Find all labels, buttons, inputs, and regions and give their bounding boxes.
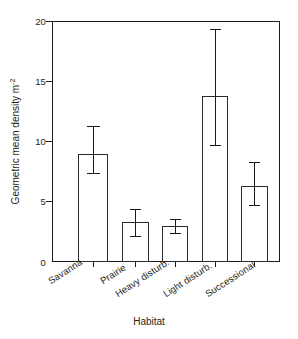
x-tick-mark-light-disturb	[215, 262, 216, 267]
error-bar-cap-lower	[249, 205, 260, 206]
y-tick-label-0: 0	[41, 258, 46, 268]
x-tick-mark-heavy-disturb	[175, 262, 176, 267]
bar-chart-figure: Geometric mean density m-2 20 15 10 5 0	[0, 0, 298, 339]
x-tick-mark-savanna	[93, 262, 94, 267]
error-bar-cap-lower	[210, 145, 221, 146]
error-bar-cap-upper	[130, 209, 141, 210]
error-bar-line	[135, 209, 136, 236]
y-axis-label-wrap: Geometric mean density m-2	[10, 21, 24, 262]
error-bar-cap-upper	[87, 126, 100, 127]
error-bar-cap-lower	[170, 233, 181, 234]
y-axis-label-exponent: -2	[9, 79, 16, 85]
error-bar-cap-upper	[170, 219, 181, 220]
error-bar-cap-upper	[249, 162, 260, 163]
error-bar-line	[215, 29, 216, 145]
y-tick-label-10: 10	[35, 137, 46, 147]
x-tick-mark-prairie	[135, 262, 136, 267]
error-bar-line	[93, 126, 94, 173]
y-tick-label-15: 15	[35, 77, 46, 87]
x-axis-label: Habitat	[0, 316, 298, 327]
error-bar-line	[254, 162, 255, 205]
y-axis-label: Geometric mean density m-2	[10, 21, 21, 262]
y-axis-label-text: Geometric mean density m	[10, 85, 21, 205]
error-bar-line	[175, 219, 176, 233]
y-tick-label-20: 20	[35, 17, 46, 27]
error-bar-cap-upper	[210, 29, 221, 30]
error-bar-cap-lower	[87, 173, 100, 174]
error-bar-cap-lower	[130, 236, 141, 237]
